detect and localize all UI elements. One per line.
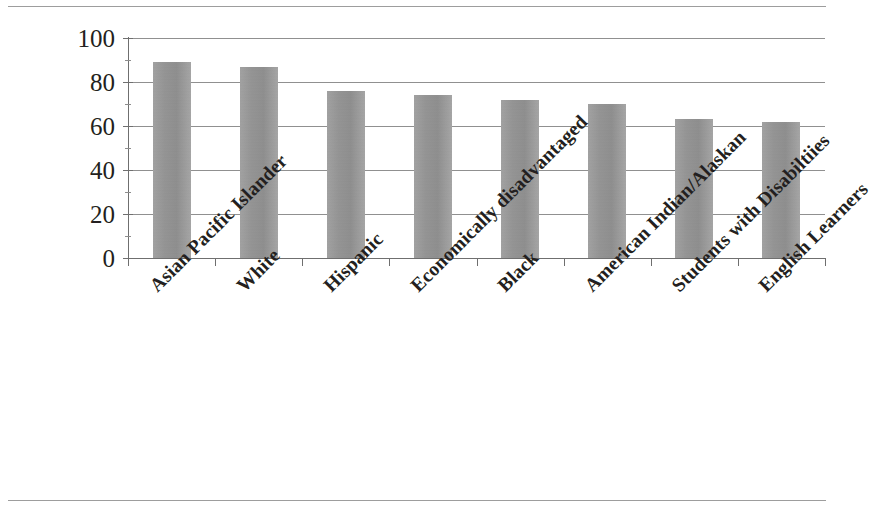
bar [153,62,191,258]
x-tick-mark [564,258,565,266]
y-tick-label: 80 [90,70,115,95]
x-tick-mark [477,258,478,266]
bar [588,104,626,258]
page-rule-top [8,6,826,7]
y-tick-label: 60 [90,114,115,139]
bar [414,95,452,258]
page-rule-bottom [8,500,826,501]
x-tick-mark [389,258,390,266]
x-tick-mark [215,258,216,266]
y-tick-minor [125,104,131,105]
y-tick-label: 0 [103,246,116,271]
x-tick-mark [302,258,303,266]
gridline [128,38,825,39]
y-tick-label: 100 [78,26,116,51]
y-tick-mark [123,214,133,215]
y-tick-mark [123,170,133,171]
gridline [128,126,825,127]
y-tick-minor [125,192,131,193]
x-tick-mark [128,258,129,266]
y-tick-minor [125,236,131,237]
y-tick-label: 40 [90,158,115,183]
y-tick-label: 20 [90,202,115,227]
x-tick-mark [651,258,652,266]
y-tick-minor [125,148,131,149]
gridline [128,82,825,83]
y-tick-mark [123,82,133,83]
y-tick-mark [123,126,133,127]
x-tick-mark [738,258,739,266]
bar [327,91,365,258]
x-tick-mark [825,258,826,266]
y-tick-minor [125,60,131,61]
y-tick-mark [123,38,133,39]
